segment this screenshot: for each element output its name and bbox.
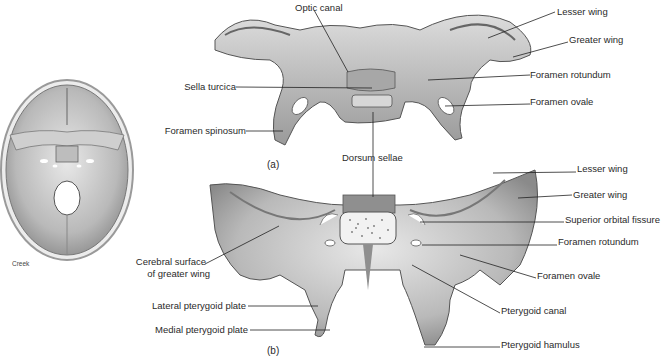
skull-inset (1, 80, 133, 260)
label-lateral-pterygoid-plate: Lateral pterygoid plate (130, 300, 246, 311)
label-foramen-rotundum-a: Foramen rotundum (530, 69, 611, 80)
label-lesser-wing-b: Lesser wing (577, 163, 628, 174)
label-greater-wing-a: Greater wing (569, 34, 623, 45)
label-cerebral-surface-line2: of greater wing (128, 268, 210, 279)
label-pterygoid-hamulus: Pterygoid hamulus (501, 339, 580, 350)
label-sella-turcica: Sella turcica (170, 81, 236, 92)
label-superior-orbital-fissure: Superior orbital fissure (565, 214, 660, 225)
label-medial-pterygoid-plate: Medial pterygoid plate (130, 324, 248, 335)
caption-b: (b) (267, 345, 279, 356)
label-optic-canal: Optic canal (295, 2, 343, 13)
sphenoid-posterior-view (210, 170, 538, 345)
label-cerebral-surface-line1: Cerebral surface (128, 256, 206, 267)
artist-credit: Creek (12, 260, 29, 267)
caption-a: (a) (267, 159, 279, 170)
label-dorsum-sellae: Dorsum sellae (342, 152, 403, 163)
label-foramen-rotundum-b: Foramen rotundum (558, 236, 639, 247)
label-lesser-wing-a: Lesser wing (557, 6, 608, 17)
label-foramen-ovale-a: Foramen ovale (530, 96, 593, 107)
label-pterygoid-canal: Pterygoid canal (501, 305, 566, 316)
label-foramen-ovale-b: Foramen ovale (537, 270, 600, 281)
label-greater-wing-b: Greater wing (573, 189, 627, 200)
label-foramen-spinosum: Foramen spinosum (158, 125, 246, 136)
